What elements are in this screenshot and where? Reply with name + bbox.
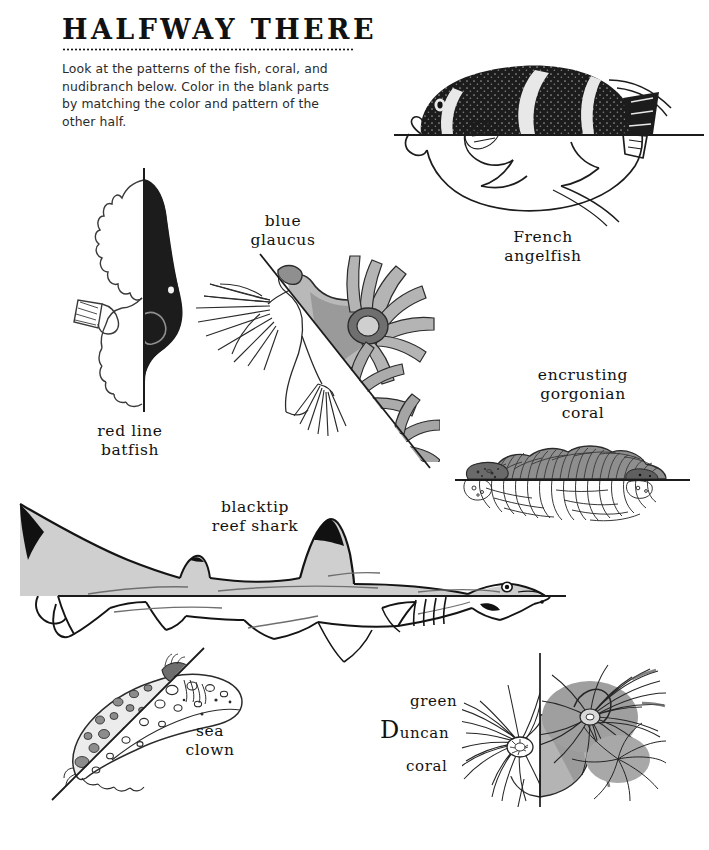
glaucus-cerata-hub-3 <box>385 434 403 450</box>
shark-eye-pupil <box>505 585 509 589</box>
caption-duncan-line1: green <box>410 694 510 709</box>
title-divider <box>62 48 354 51</box>
sea-clown-shaded-half <box>64 654 242 786</box>
shark-split-line <box>58 595 566 597</box>
figure-french-angelfish <box>395 58 705 238</box>
figure-blue-glaucus <box>190 240 440 470</box>
angelfish-eye-pupil <box>437 102 442 109</box>
batfish-eye <box>168 287 174 294</box>
caption-red-line-batfish: red line batfish <box>55 422 205 460</box>
caption-duncan-initial: D <box>380 716 400 744</box>
angelfish-split-line <box>394 134 704 136</box>
glaucus-shaded-half <box>278 240 440 468</box>
duncan-shaded-half <box>532 665 666 801</box>
batfish-dark-half <box>144 180 183 404</box>
gorgonian-shaded-half <box>466 446 666 479</box>
french-angelfish-illustration <box>395 58 705 238</box>
shark-nostril <box>540 600 544 604</box>
caption-french-angelfish: French angelfish <box>478 228 608 266</box>
batfish-outline-half <box>74 180 144 406</box>
glaucus-cerata-hub-inner <box>357 316 379 336</box>
duncan-mouth-inner-right <box>586 714 594 720</box>
duncan-mouth-inner-left <box>515 743 525 751</box>
sea-clown-dot-spots <box>183 698 232 715</box>
red-line-batfish-illustration <box>72 172 202 412</box>
gorgonian-split-line <box>455 479 690 481</box>
page-title: HALFWAY THERE <box>62 16 362 43</box>
caption-encrusting-gorgonian-coral: encrusting gorgonian coral <box>508 366 658 423</box>
caption-blue-glaucus: blue glaucus <box>228 212 338 250</box>
batfish-split-line <box>143 168 145 412</box>
angelfish-outline-lower <box>406 134 647 226</box>
caption-green-duncan-coral: green Duncan coral <box>380 678 510 789</box>
caption-blacktip-reef-shark: blacktip reef shark <box>180 498 330 536</box>
instructions-text: Look at the patterns of the fish, coral,… <box>62 60 347 130</box>
gorgonian-rock-left <box>466 462 508 479</box>
caption-duncan-line3: coral <box>406 759 510 774</box>
header: HALFWAY THERE Look at the patterns of th… <box>62 16 362 130</box>
figure-red-line-batfish <box>72 172 202 412</box>
caption-duncan-rest: uncan <box>400 724 449 742</box>
caption-sea-clown: sea clown <box>155 722 265 760</box>
glaucus-cerata-hub-2 <box>341 392 363 412</box>
worksheet-page: HALFWAY THERE Look at the patterns of th… <box>0 0 709 850</box>
shark-pectoral-black-tip <box>480 603 500 611</box>
blue-glaucus-illustration <box>190 240 440 470</box>
caption-duncan-line2: Duncan <box>380 721 510 741</box>
